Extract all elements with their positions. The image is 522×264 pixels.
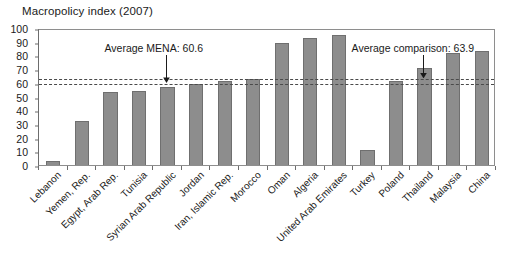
x-tick-mark-16 bbox=[495, 166, 496, 170]
x-tick-mark-4 bbox=[152, 166, 153, 170]
x-tick-mark-10 bbox=[324, 166, 325, 170]
y-tick-mark-100 bbox=[35, 30, 39, 31]
x-axis-label-egypt-arab-rep: Egypt, Arab Rep. bbox=[60, 170, 121, 231]
bar-yemen-rep bbox=[75, 121, 89, 165]
x-tick-mark-5 bbox=[181, 166, 182, 170]
x-tick-mark-3 bbox=[124, 166, 125, 170]
average-line-comparison bbox=[39, 79, 494, 80]
bar-iran-islamic-rep bbox=[218, 81, 232, 165]
x-tick-mark-6 bbox=[209, 166, 210, 170]
annotation-average-mena: Average MENA: 60.6 bbox=[105, 42, 203, 54]
bar-lebanon bbox=[46, 161, 60, 165]
x-tick-mark-7 bbox=[238, 166, 239, 170]
bar-oman bbox=[275, 43, 289, 165]
x-tick-mark-9 bbox=[295, 166, 296, 170]
y-tick-label-90: 90 bbox=[16, 37, 28, 48]
bar-turkey bbox=[360, 150, 374, 165]
annotation-average-comparison: Average comparison: 63.9 bbox=[352, 42, 474, 54]
y-tick-mark-80 bbox=[35, 57, 39, 58]
y-axis: 0102030405060708090100 bbox=[0, 29, 34, 166]
x-tick-mark-0 bbox=[38, 166, 39, 170]
bar-syrian-arab-republic bbox=[160, 87, 174, 165]
x-axis-label-morocco: Morocco bbox=[229, 170, 263, 204]
bar-egypt-arab-rep bbox=[103, 92, 117, 165]
x-axis-label-oman: Oman bbox=[266, 170, 292, 196]
y-tick-mark-10 bbox=[35, 153, 39, 154]
x-axis-label-turkey: Turkey bbox=[349, 170, 377, 198]
bar-morocco bbox=[246, 79, 260, 165]
x-tick-mark-11 bbox=[352, 166, 353, 170]
bar-thailand bbox=[417, 68, 431, 165]
x-tick-mark-12 bbox=[381, 166, 382, 170]
y-tick-mark-70 bbox=[35, 71, 39, 72]
y-tick-mark-20 bbox=[35, 139, 39, 140]
y-tick-label-30: 30 bbox=[16, 120, 28, 131]
x-tick-mark-13 bbox=[409, 166, 410, 170]
y-tick-label-40: 40 bbox=[16, 106, 28, 117]
bar-tunisia bbox=[132, 91, 146, 165]
x-tick-mark-1 bbox=[67, 166, 68, 170]
bar-malaysia bbox=[446, 53, 460, 165]
annotation-arrow-mena bbox=[162, 55, 171, 83]
y-tick-mark-90 bbox=[35, 43, 39, 44]
annotation-arrow-comparison bbox=[419, 55, 428, 78]
y-tick-label-10: 10 bbox=[16, 147, 28, 158]
y-tick-label-100: 100 bbox=[10, 24, 28, 35]
chart-title: Macropolicy index (2007) bbox=[22, 5, 153, 17]
y-tick-mark-50 bbox=[35, 98, 39, 99]
y-tick-label-70: 70 bbox=[16, 65, 28, 76]
bar-jordan bbox=[189, 84, 203, 165]
y-tick-label-20: 20 bbox=[16, 133, 28, 144]
bar-poland bbox=[389, 81, 403, 165]
y-tick-label-60: 60 bbox=[16, 79, 28, 90]
y-tick-mark-40 bbox=[35, 112, 39, 113]
x-axis-label-china: China bbox=[466, 170, 492, 196]
macropolicy-index-bar-chart: Macropolicy index (2007) 010203040506070… bbox=[0, 0, 522, 264]
y-tick-label-50: 50 bbox=[16, 92, 28, 103]
average-line-mena bbox=[39, 84, 494, 85]
bar-algeria bbox=[303, 38, 317, 165]
bar-united-arab-emirates bbox=[332, 35, 346, 165]
x-tick-mark-2 bbox=[95, 166, 96, 170]
x-tick-mark-14 bbox=[438, 166, 439, 170]
x-tick-mark-8 bbox=[267, 166, 268, 170]
x-axis-category-labels: LebanonYemen, Rep.Egypt, Arab Rep.Tunisi… bbox=[0, 170, 522, 264]
y-tick-mark-30 bbox=[35, 125, 39, 126]
y-tick-label-80: 80 bbox=[16, 51, 28, 62]
bar-china bbox=[475, 51, 489, 165]
x-tick-mark-15 bbox=[466, 166, 467, 170]
y-tick-mark-60 bbox=[35, 84, 39, 85]
